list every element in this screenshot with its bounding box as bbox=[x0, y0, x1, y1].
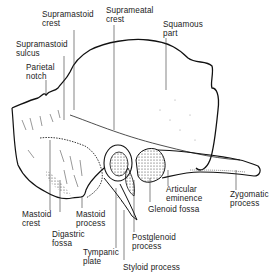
label-parietal-notch: Parietal notch bbox=[26, 63, 55, 81]
temporal-bone-diagram: Supramastoid crest Suprameatal crest Squ… bbox=[0, 0, 278, 278]
label-glenoid-fossa: Glenoid fossa bbox=[148, 205, 199, 214]
label-tympanic-plate: Tympanic plate bbox=[83, 248, 119, 266]
label-squamous-part: Squamous part bbox=[163, 20, 203, 38]
label-mastoid-crest: Mastoid crest bbox=[22, 210, 51, 228]
label-digastric-fossa: Digastric fossa bbox=[52, 230, 85, 248]
label-suprameatal-crest: Suprameatal crest bbox=[106, 6, 154, 24]
label-supramastoid-crest: Supramastoid crest bbox=[42, 10, 94, 28]
label-supramastoid-sulcus: Supramastoid sulcus bbox=[16, 40, 68, 58]
label-zygomatic-process: Zygomatic process bbox=[230, 190, 269, 208]
zygomatic-process-outline bbox=[158, 150, 260, 178]
label-styloid-process: Styloid process bbox=[123, 263, 180, 272]
squamous-part-outline bbox=[12, 39, 219, 169]
label-postglenoid-process: Postglenoid process bbox=[132, 233, 176, 251]
label-mastoid-process: Mastoid process bbox=[76, 210, 105, 228]
label-articular-eminence: Articular eminence bbox=[166, 185, 202, 203]
